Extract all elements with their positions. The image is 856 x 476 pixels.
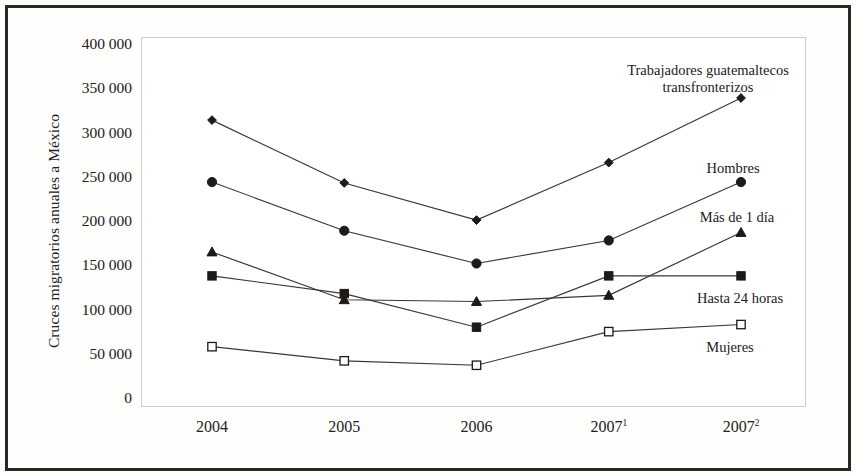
chart-figure: Cruces migratorios anuales a México 050 …	[0, 0, 856, 476]
series-label-line: Mujeres	[706, 339, 754, 356]
series-label-line: Trabajadores guatemaltecos	[627, 62, 789, 79]
series-label-line: Más de 1 día	[700, 209, 775, 226]
x-tick-label: 2004	[196, 418, 228, 436]
series-label-3: Más de 1 día	[700, 209, 775, 226]
series-label-4: Hasta 24 horas	[697, 290, 783, 307]
x-tick-label: 20072	[723, 418, 760, 436]
x-tick-label-superscript: 1	[622, 418, 627, 428]
series-label-1: Trabajadores guatemaltecostransfronteriz…	[627, 62, 789, 96]
x-tick-label: 20071	[590, 418, 627, 436]
series-label-line: Hasta 24 horas	[697, 290, 783, 307]
series-label-2: Hombres	[706, 160, 759, 177]
x-tick-label: 2006	[461, 418, 493, 436]
x-tick-label-superscript: 2	[755, 418, 760, 428]
series-label-line: transfronterizos	[627, 79, 789, 96]
series-label-5: Mujeres	[706, 339, 754, 356]
series-label-line: Hombres	[706, 160, 759, 177]
x-tick-label: 2005	[328, 418, 360, 436]
